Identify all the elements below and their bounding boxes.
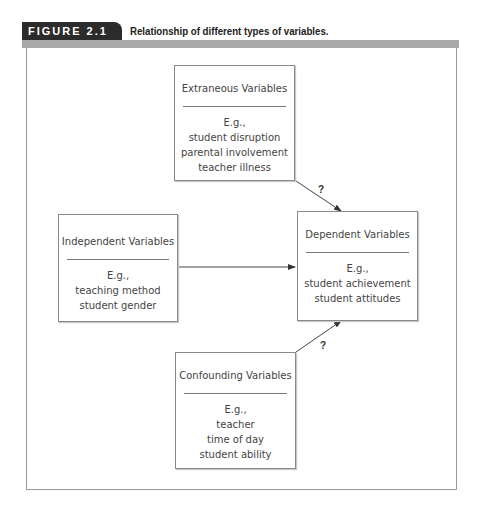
arrow-confounding-to-dependent [296, 321, 341, 352]
example-item: parental involvement [175, 145, 294, 160]
example-item: student attitudes [298, 291, 417, 306]
divider [183, 106, 286, 107]
example-item: student ability [176, 447, 295, 462]
example-label: E.g., [176, 402, 295, 417]
example-label: E.g., [298, 261, 417, 276]
divider [306, 252, 409, 253]
box-independent-variables: Independent Variables E.g., teaching met… [58, 214, 178, 322]
example-item: student achievement [298, 276, 417, 291]
example-item: teacher [176, 417, 295, 432]
divider [67, 259, 169, 260]
example-label: E.g., [175, 115, 294, 130]
example-item: teacher illness [175, 160, 294, 175]
box-title: Extraneous Variables [175, 82, 294, 96]
question-mark-extraneous: ? [318, 184, 324, 195]
box-title: Independent Variables [59, 235, 177, 249]
example-item: time of day [176, 432, 295, 447]
arrow-extraneous-to-dependent [293, 179, 341, 211]
box-title: Confounding Variables [176, 369, 295, 383]
divider [184, 393, 287, 394]
example-item: student disruption [175, 130, 294, 145]
example-item: student gender [59, 298, 177, 313]
box-title: Dependent Variables [298, 228, 417, 242]
box-dependent-variables: Dependent Variables E.g., student achiev… [297, 211, 418, 321]
example-item: teaching method [59, 283, 177, 298]
box-confounding-variables: Confounding Variables E.g., teacher time… [175, 352, 296, 469]
question-mark-confounding: ? [320, 340, 326, 351]
example-label: E.g., [59, 268, 177, 283]
box-extraneous-variables: Extraneous Variables E.g., student disru… [174, 65, 295, 181]
